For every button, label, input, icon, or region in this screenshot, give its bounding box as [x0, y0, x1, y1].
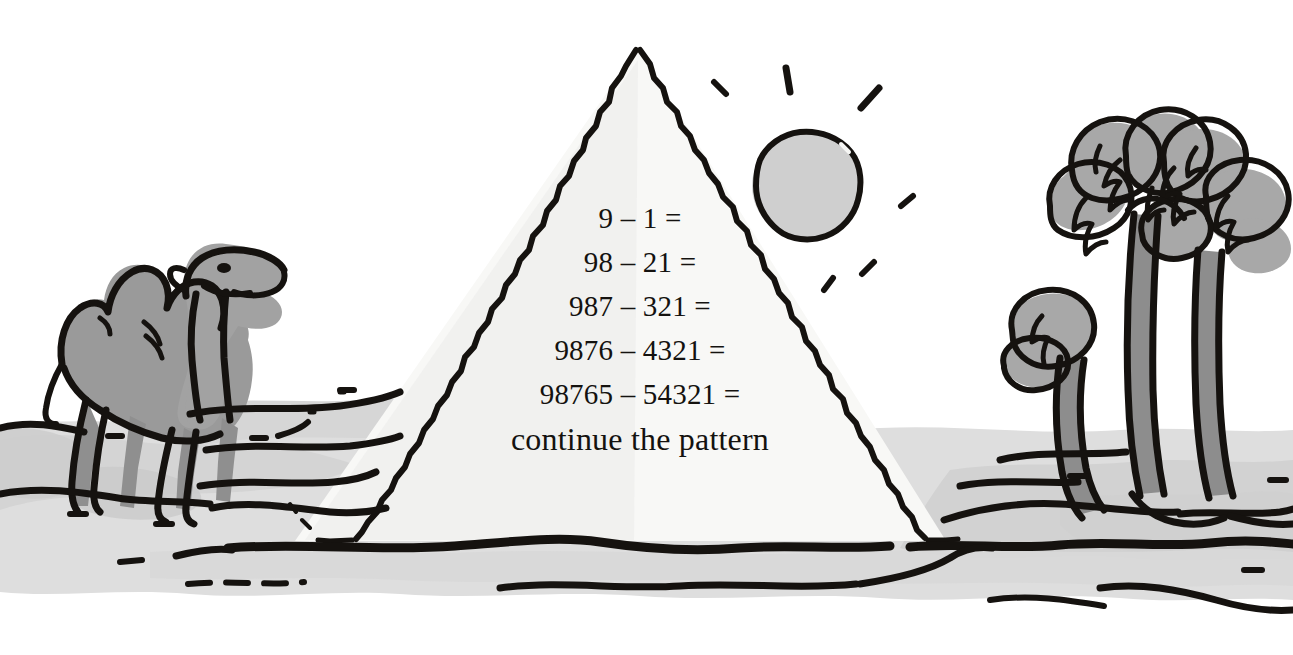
illustration-scene: 9 – 1 = 98 – 21 = 987 – 321 = 9876 – 432… — [0, 0, 1293, 655]
dune-ridge-left-2 — [0, 490, 210, 504]
foreground-dashed-line — [188, 582, 304, 584]
right-edge-dune-line — [1000, 452, 1126, 460]
dune-contour-3 — [200, 472, 376, 486]
foreground-curve-right — [860, 547, 992, 584]
dune-contour-2 — [206, 436, 400, 450]
dune-ridge-left-1 — [0, 424, 84, 432]
palm-ground-line-3 — [960, 482, 1078, 486]
dune-ridge-left-3 — [212, 505, 386, 513]
dune-contour-4 — [278, 422, 308, 436]
horizon-nick-1 — [176, 549, 232, 556]
palm-ground-line-5 — [1230, 516, 1293, 525]
palm-ground-line-2 — [1180, 509, 1293, 514]
ground-lines-layer — [0, 0, 1293, 655]
bottom-right-curve-1 — [1100, 586, 1293, 611]
ground-lines — [0, 390, 1293, 610]
horizon-line-main — [228, 539, 890, 549]
horizon-nick-2 — [120, 560, 142, 562]
foreground-curve-center — [500, 584, 856, 588]
dune-contour-1 — [190, 392, 400, 414]
bottom-right-curve-2 — [990, 598, 1104, 606]
horizon-line-main-right — [910, 541, 1293, 547]
